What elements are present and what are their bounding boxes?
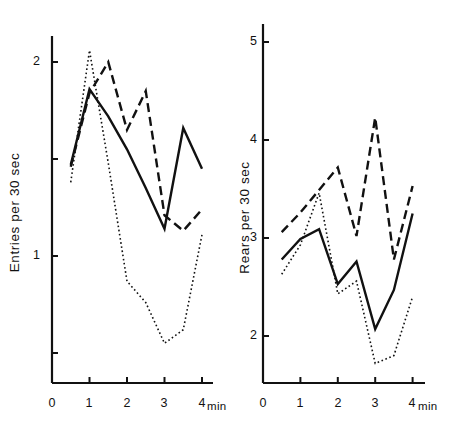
series-line-dotted: [282, 193, 413, 364]
y-tick-label-rears-3: 3: [241, 230, 257, 244]
y-tick-label-rears-5: 5: [241, 34, 257, 48]
x-tick-label-entries-0: 0: [45, 396, 59, 410]
axes-entries: [52, 36, 213, 383]
axes-rears: [263, 24, 425, 383]
y-tick-label-entries-2: 2: [24, 54, 40, 68]
chart-panel-entries: Entries per 30 sec 2 1 0 1 2 3 4 min: [0, 0, 229, 437]
x-tick-label-entries-1: 1: [82, 396, 96, 410]
x-tick-label-rears-1: 1: [293, 396, 307, 410]
figure-root: Entries per 30 sec 2 1 0 1 2 3 4 min Rea…: [0, 0, 458, 437]
plot-area-rears: [229, 0, 458, 437]
series-line-dashed: [71, 62, 202, 231]
x-tick-label-entries-2: 2: [120, 396, 134, 410]
x-tick-label-rears-2: 2: [331, 396, 345, 410]
y-axis-label-rears: Rears per 30 sec: [237, 158, 252, 278]
y-axis-label-entries: Entries per 30 sec: [7, 150, 22, 275]
chart-panel-rears: Rears per 30 sec 5 4 3 2 0 1 2 3 4 min: [229, 0, 458, 437]
data-series-rears: [282, 117, 413, 363]
x-tick-label-rears-4: 4: [405, 396, 419, 410]
series-line-dotted: [71, 50, 202, 343]
x-tick-label-rears-3: 3: [368, 396, 382, 410]
x-tick-label-rears-0: 0: [256, 396, 270, 410]
y-tick-label-entries-1: 1: [24, 248, 40, 262]
data-series-entries: [71, 50, 202, 343]
series-line-solid: [282, 214, 413, 330]
x-axis-unit-label-entries: min: [207, 400, 226, 412]
x-axis-unit-label-rears: min: [418, 400, 437, 412]
x-tick-label-entries-3: 3: [157, 396, 171, 410]
y-tick-label-rears-2: 2: [241, 328, 257, 342]
y-tick-label-rears-4: 4: [241, 132, 257, 146]
